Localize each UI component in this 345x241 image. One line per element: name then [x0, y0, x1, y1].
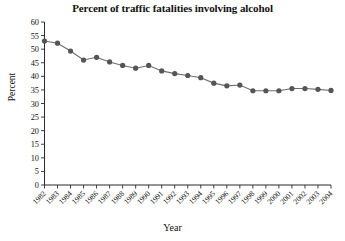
- y-tick-label: 55: [31, 32, 39, 41]
- y-tick-label: 10: [31, 154, 39, 163]
- y-tick-label: 15: [31, 140, 39, 149]
- series-markers: [42, 38, 334, 93]
- y-axis: 051015202530354045505560: [31, 18, 45, 190]
- chart-container: Percent of traffic fatalities involving …: [0, 0, 345, 241]
- y-tick-label: 45: [31, 59, 39, 68]
- plot-area: 051015202530354045505560 198219831984198…: [0, 0, 345, 241]
- y-tick-label: 35: [31, 86, 39, 95]
- data-point: [250, 88, 255, 93]
- y-tick-label: 60: [31, 18, 39, 27]
- data-point: [198, 75, 203, 80]
- data-point: [315, 87, 320, 92]
- data-point: [328, 88, 333, 93]
- x-tick-group: 1982198319841985198619871988198919901991…: [31, 185, 335, 206]
- x-axis: 1982198319841985198619871988198919901991…: [31, 185, 335, 206]
- data-point: [94, 55, 99, 60]
- data-point: [81, 57, 86, 62]
- series-line: [45, 41, 332, 91]
- y-tick-label: 50: [31, 45, 39, 54]
- data-point: [276, 88, 281, 93]
- data-point: [42, 38, 47, 43]
- y-tick-label: 40: [31, 72, 39, 81]
- x-tick-label: 2004: [317, 189, 334, 206]
- data-point: [224, 83, 229, 88]
- y-tick-label: 20: [31, 127, 39, 136]
- data-point: [120, 63, 125, 68]
- data-point: [237, 82, 242, 87]
- y-tick-label: 0: [35, 181, 39, 190]
- data-point: [172, 71, 177, 76]
- data-point: [159, 68, 164, 73]
- data-point: [263, 88, 268, 93]
- data-point: [133, 66, 138, 71]
- data-point: [289, 86, 294, 91]
- y-tick-label: 5: [35, 167, 39, 176]
- y-tick-label: 25: [31, 113, 39, 122]
- data-point: [146, 63, 151, 68]
- data-point: [211, 81, 216, 86]
- data-point: [185, 73, 190, 78]
- y-tick-label: 30: [31, 100, 39, 109]
- data-point: [302, 86, 307, 91]
- data-point: [68, 48, 73, 53]
- data-series: [42, 38, 334, 93]
- y-tick-group: 051015202530354045505560: [31, 18, 45, 190]
- data-point: [55, 41, 60, 46]
- data-point: [107, 59, 112, 64]
